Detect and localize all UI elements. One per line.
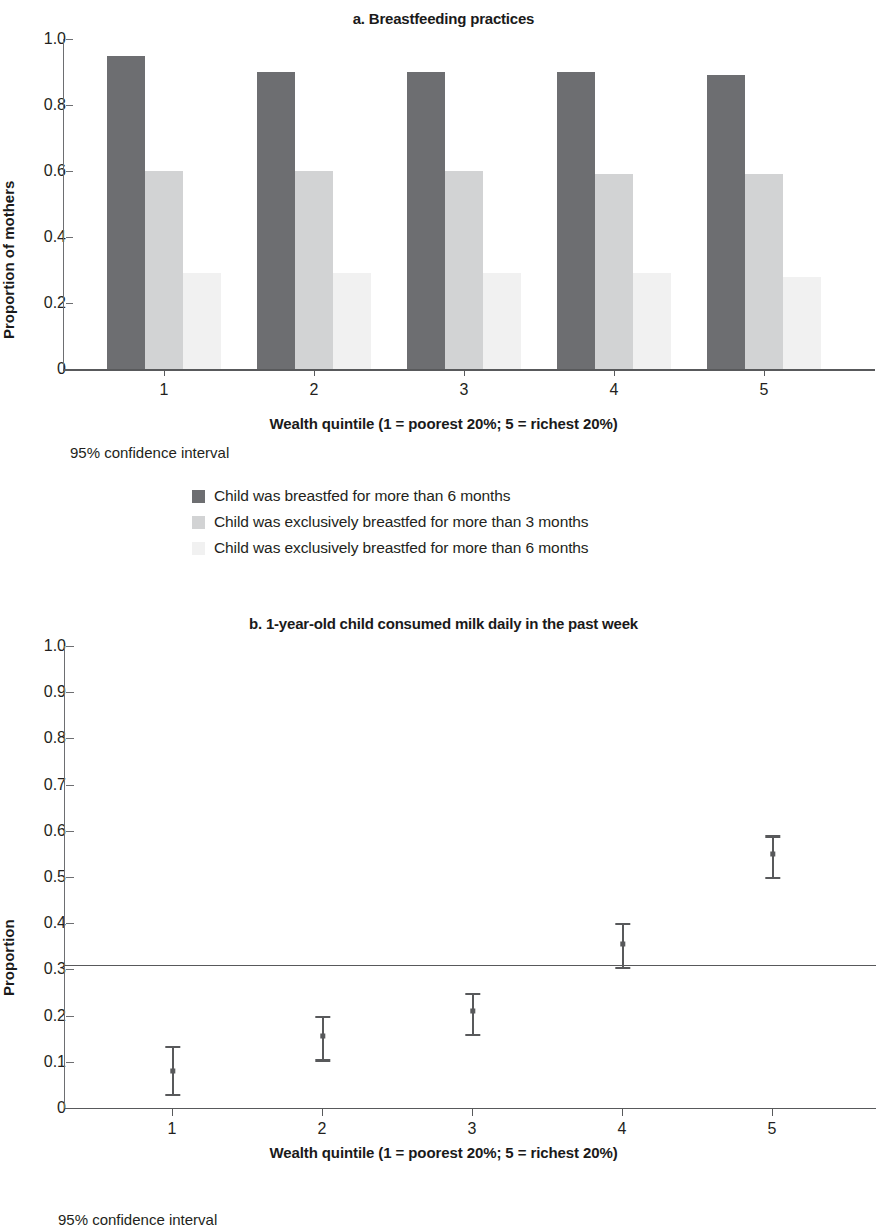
data-point-quintile-5: [770, 851, 775, 856]
panel-a-breastfeeding-practices: a. Breastfeeding practices Proportion of…: [0, 0, 887, 600]
panel-b-plot-area: Proportion 1.00.90.80.70.60.50.40.30.20.…: [0, 646, 887, 1116]
panel-a-x-tick: [164, 369, 165, 376]
panel-a-bars: 12345: [64, 39, 876, 369]
panel-a-title: a. Breastfeeding practices: [0, 0, 887, 27]
panel-b-y-tick-label: 0.1: [22, 1053, 66, 1071]
panel-a-legend: Child was breastfed for more than 6 mont…: [0, 483, 887, 561]
error-bar-cap-bottom-quintile-5: [765, 877, 780, 879]
panel-a-y-axis: 1.00.80.60.40.20: [10, 39, 66, 369]
panel-b-ci-note: 95% confidence interval: [58, 1211, 217, 1228]
panel-b-x-axis-title: Wealth quintile (1 = poorest 20%; 5 = ri…: [0, 1144, 887, 1161]
panel-a-y-tick-label: 0.4: [22, 228, 66, 246]
data-point-quintile-4: [620, 941, 625, 946]
legend-label-1: Child was breastfed for more than 6 mont…: [214, 487, 510, 505]
legend-swatch-3-icon: [192, 542, 205, 555]
panel-b-y-tick-label: 0.6: [22, 822, 66, 840]
panel-a-plot-area: Proportion of mothers 1.00.80.60.40.20 1…: [0, 39, 887, 389]
panel-a-y-tick-label: 0.2: [22, 294, 66, 312]
bar-group: [707, 39, 821, 369]
panel-b-x-tick-label: 2: [292, 1120, 352, 1138]
legend-label-3: Child was exclusively breastfed for more…: [214, 539, 589, 557]
panel-a-x-tick-label: 3: [434, 381, 494, 399]
error-bar-cap-bottom-quintile-2: [315, 1059, 330, 1061]
panel-b-x-tick-label: 3: [442, 1120, 502, 1138]
panel-b-y-tick-label: 1.0: [22, 637, 66, 655]
data-point-quintile-2: [320, 1034, 325, 1039]
error-bar-cap-top-quintile-5: [765, 835, 780, 837]
panel-a-x-tick: [614, 369, 615, 376]
panel-b-y-tick-label: 0.3: [22, 960, 66, 978]
panel-a-x-tick-label: 1: [134, 381, 194, 399]
panel-a-x-axis-title: Wealth quintile (1 = poorest 20%; 5 = ri…: [0, 415, 887, 432]
panel-a-y-tick-label: 0.6: [22, 162, 66, 180]
bar-1-quintile-1: [107, 56, 145, 370]
panel-b-y-tick-label: 0.9: [22, 683, 66, 701]
panel-b-y-tick-label: 0.4: [22, 914, 66, 932]
panel-b-x-tick-label: 5: [742, 1120, 802, 1138]
bar-1-quintile-2: [257, 72, 295, 369]
panel-b-x-tick-label: 4: [592, 1120, 652, 1138]
panel-b-y-tick-label: 0.2: [22, 1007, 66, 1025]
panel-a-x-tick-label: 4: [584, 381, 644, 399]
bar-3-quintile-5: [783, 277, 821, 369]
bar-1-quintile-4: [557, 72, 595, 369]
panel-b-x-tick: [172, 1108, 173, 1116]
legend-label-2: Child was exclusively breastfed for more…: [214, 513, 589, 531]
bar-3-quintile-2: [333, 273, 371, 369]
panel-b-error-bars: 12345: [64, 646, 876, 1108]
bar-group: [257, 39, 371, 369]
panel-b-x-tick: [322, 1108, 323, 1116]
bar-3-quintile-3: [483, 273, 521, 369]
legend-item-2: Child was exclusively breastfed for more…: [192, 509, 887, 535]
data-point-quintile-3: [470, 1008, 475, 1013]
panel-a-x-tick: [314, 369, 315, 376]
bar-2-quintile-5: [745, 174, 783, 369]
bar-1-quintile-3: [407, 72, 445, 369]
panel-b-y-axis: 1.00.90.80.70.60.50.40.30.20.10: [10, 646, 66, 1108]
bar-group: [107, 39, 221, 369]
panel-b-x-tick-label: 1: [142, 1120, 202, 1138]
panel-b-x-axis-line: [64, 1108, 876, 1109]
panel-b-y-tick-label: 0: [22, 1099, 66, 1117]
error-bar-cap-top-quintile-1: [165, 1046, 180, 1048]
panel-b-x-tick: [472, 1108, 473, 1116]
bar-2-quintile-3: [445, 171, 483, 369]
error-bar-cap-top-quintile-3: [465, 993, 480, 995]
error-bar-cap-top-quintile-4: [615, 923, 630, 925]
bar-group: [557, 39, 671, 369]
panel-a-x-tick-label: 2: [284, 381, 344, 399]
bar-group: [407, 39, 521, 369]
bar-2-quintile-1: [145, 171, 183, 369]
panel-a-x-tick-label: 5: [734, 381, 794, 399]
panel-b-y-tick-label: 0.7: [22, 776, 66, 794]
bar-3-quintile-4: [633, 273, 671, 369]
data-point-quintile-1: [170, 1069, 175, 1074]
legend-item-3: Child was exclusively breastfed for more…: [192, 535, 887, 561]
panel-a-ci-note: 95% confidence interval: [70, 444, 887, 461]
panel-b-y-tick-label: 0.8: [22, 729, 66, 747]
panel-a-y-tick-label: 1.0: [22, 30, 66, 48]
error-bar-cap-top-quintile-2: [315, 1016, 330, 1018]
bar-2-quintile-2: [295, 171, 333, 369]
panel-b-x-tick: [622, 1108, 623, 1116]
error-bar-cap-bottom-quintile-1: [165, 1094, 180, 1096]
bar-2-quintile-4: [595, 174, 633, 369]
panel-b-milk-consumption: b. 1-year-old child consumed milk daily …: [0, 615, 887, 1231]
error-bar-cap-bottom-quintile-3: [465, 1034, 480, 1036]
bar-3-quintile-1: [183, 273, 221, 369]
panel-a-x-axis-line: [63, 369, 875, 371]
error-bar-cap-bottom-quintile-4: [615, 967, 630, 969]
panel-a-x-tick: [464, 369, 465, 376]
panel-a-y-tick-label: 0.8: [22, 96, 66, 114]
bar-1-quintile-5: [707, 75, 745, 369]
legend-swatch-2-icon: [192, 516, 205, 529]
panel-b-x-tick: [772, 1108, 773, 1116]
panel-a-y-tick-label: 0: [22, 360, 66, 378]
legend-item-1: Child was breastfed for more than 6 mont…: [192, 483, 887, 509]
panel-b-y-tick-label: 0.5: [22, 868, 66, 886]
panel-b-title: b. 1-year-old child consumed milk daily …: [0, 615, 887, 632]
panel-a-x-tick: [764, 369, 765, 376]
legend-swatch-1-icon: [192, 490, 205, 503]
